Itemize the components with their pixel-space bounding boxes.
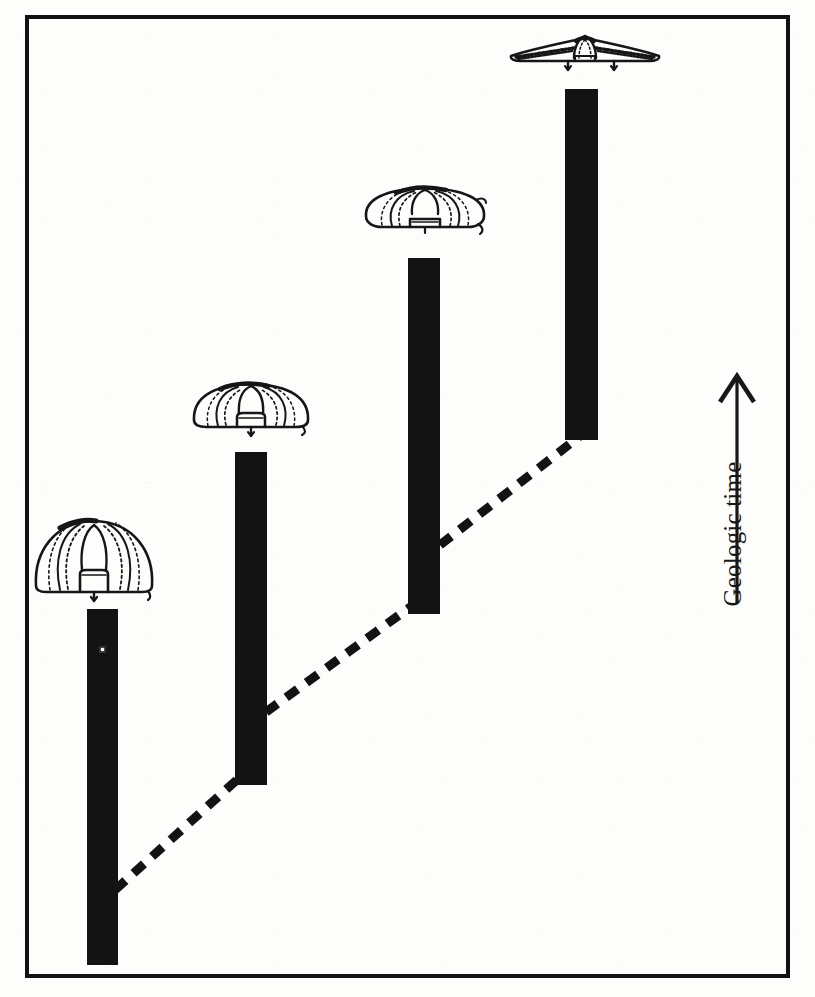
range-bar-4 xyxy=(565,89,598,440)
trilobite-cephalon-2 xyxy=(190,378,312,440)
bar-1-white-speck xyxy=(99,646,106,653)
geologic-time-label: Geologic time xyxy=(719,429,747,639)
range-bar-2 xyxy=(235,452,267,785)
trilobite-cephalon-4 xyxy=(506,32,664,72)
range-bar-3 xyxy=(408,258,440,614)
geologic-time-axis: Geologic time xyxy=(700,370,810,715)
figure-root: Geologic time xyxy=(0,0,815,997)
trilobite-cephalon-3 xyxy=(362,183,488,243)
range-bar-1 xyxy=(87,609,118,965)
trilobite-cephalon-1 xyxy=(30,512,158,604)
